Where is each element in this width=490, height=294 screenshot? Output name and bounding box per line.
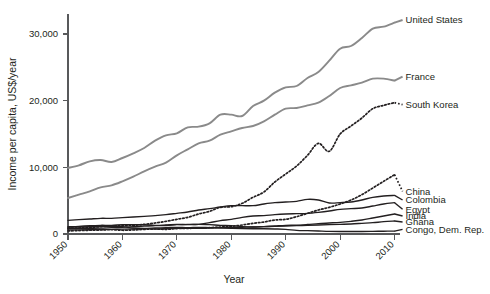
series-label-south-korea: South Korea — [406, 99, 460, 110]
y-tick-label: 30,000 — [29, 28, 58, 39]
leader-line — [395, 195, 403, 200]
x-tick-label: 2010 — [373, 239, 396, 262]
leader-line — [395, 214, 403, 216]
x-tick-label: 1990 — [264, 239, 287, 262]
income-per-capita-chart: 010,00020,00030,000 19501960197019801990… — [0, 0, 490, 294]
x-tick-label: 1950 — [47, 239, 70, 262]
x-tick-label: 1970 — [156, 239, 179, 262]
y-tick-label: 20,000 — [29, 95, 58, 106]
series-label-united-states: United States — [406, 14, 463, 25]
series-lines — [68, 23, 395, 232]
leader-line — [395, 20, 403, 23]
label-leader-lines — [395, 20, 403, 231]
series-label-france: France — [406, 71, 436, 82]
y-tick-label: 0 — [53, 228, 58, 239]
y-axis-ticks: 010,00020,00030,000 — [29, 28, 68, 239]
x-tick-label: 1980 — [210, 239, 233, 262]
series-line-united-states — [68, 23, 395, 168]
series-line-france — [68, 78, 395, 198]
y-tick-label: 10,000 — [29, 162, 58, 173]
x-axis-ticks: 1950196019701980199020002010 — [47, 234, 396, 261]
x-tick-label: 2000 — [319, 239, 342, 262]
y-axis-title: Income per capita, US$/year — [6, 57, 18, 191]
leader-line — [395, 175, 403, 192]
series-labels: United StatesFranceSouth KoreaChinaColom… — [406, 14, 485, 234]
x-axis-title: Year — [223, 273, 245, 285]
x-tick-label: 1960 — [101, 239, 124, 262]
leader-line — [395, 103, 403, 105]
series-line-colombia — [68, 195, 395, 220]
leader-line — [395, 221, 403, 222]
leader-line — [395, 229, 403, 231]
leader-line — [395, 77, 403, 81]
chart-svg: 010,00020,00030,000 19501960197019801990… — [0, 0, 490, 294]
leader-line — [395, 203, 403, 210]
series-label-congo-dem-rep: Congo, Dem. Rep. — [406, 224, 485, 235]
